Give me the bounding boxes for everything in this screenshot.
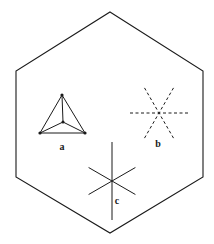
figure-canvas: a b c bbox=[0, 0, 214, 244]
hexagon-outline bbox=[16, 12, 203, 233]
label-c: c bbox=[115, 195, 120, 206]
label-a: a bbox=[60, 141, 65, 152]
element-b-dashed-asterisk: b bbox=[130, 88, 188, 149]
element-a-tetrahedron: a bbox=[38, 93, 86, 152]
element-c-solid-asterisk: c bbox=[89, 142, 136, 220]
label-b: b bbox=[155, 138, 161, 149]
tetra-vertex-base-right bbox=[83, 131, 86, 134]
tetra-vertex-apex bbox=[60, 93, 63, 96]
symmetry-diagram-svg: a b c bbox=[0, 0, 214, 244]
tetra-vertex-base-left bbox=[38, 131, 41, 134]
tetra-vertex-base-back bbox=[62, 121, 65, 124]
tetra-edge-apex-back bbox=[62, 95, 63, 122]
